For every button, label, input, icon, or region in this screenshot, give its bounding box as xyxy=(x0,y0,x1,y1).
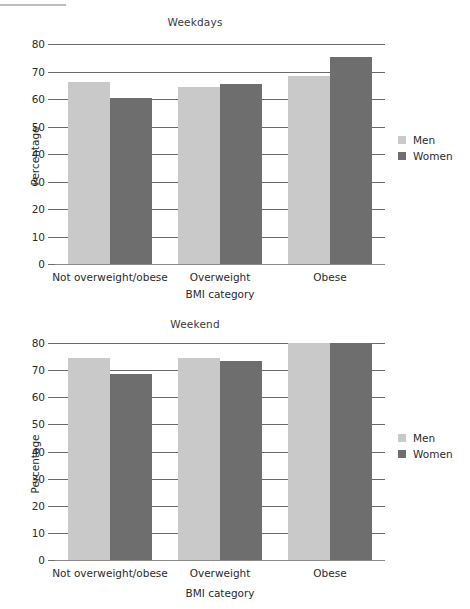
y-tick-label-30: 30 xyxy=(32,473,45,485)
x-tick-label-1: Overweight xyxy=(190,567,251,579)
y-axis-title-weekend: Percentage xyxy=(29,419,41,509)
x-tick-label-2: Obese xyxy=(313,271,346,283)
gridline-0 xyxy=(55,264,385,265)
y-tick-label-40: 40 xyxy=(32,446,45,458)
legend-label-men: Men xyxy=(413,432,435,444)
y-tick-10 xyxy=(48,237,55,238)
bar-men-0[interactable] xyxy=(68,358,110,560)
legend-swatch-men-icon xyxy=(398,434,406,442)
bar-women-1[interactable] xyxy=(220,361,262,560)
x-tick-label-1: Overweight xyxy=(190,271,251,283)
legend-swatch-women-icon xyxy=(398,450,406,458)
y-tick-50 xyxy=(48,127,55,128)
y-tick-label-60: 60 xyxy=(32,93,45,105)
bar-men-0[interactable] xyxy=(68,82,110,264)
legend-weekend: Men Women xyxy=(398,430,453,462)
y-tick-label-80: 80 xyxy=(32,337,45,349)
legend-weekdays: Men Women xyxy=(398,132,453,164)
y-tick-10 xyxy=(48,533,55,534)
y-tick-label-50: 50 xyxy=(32,418,45,430)
y-tick-60 xyxy=(48,397,55,398)
bar-men-2[interactable] xyxy=(288,76,330,264)
bar-women-2[interactable] xyxy=(330,57,372,264)
bar-women-0[interactable] xyxy=(110,98,152,264)
legend-swatch-men-icon xyxy=(398,136,406,144)
legend-item-men[interactable]: Men xyxy=(398,132,453,148)
x-axis-title-weekend: BMI category xyxy=(55,587,385,599)
legend-swatch-women-icon xyxy=(398,152,406,160)
bar-women-0[interactable] xyxy=(110,374,152,560)
y-tick-80 xyxy=(48,44,55,45)
bar-women-1[interactable] xyxy=(220,84,262,264)
chart-panel-weekend: Weekend Percentage 01020304050607080Not … xyxy=(0,310,470,609)
bar-men-1[interactable] xyxy=(178,87,220,264)
plot-area-weekend: 01020304050607080Not overweight/obeseOve… xyxy=(55,343,385,560)
chart-panel-weekdays: Weekdays Percentage 01020304050607080Not… xyxy=(0,0,470,310)
bar-men-2[interactable] xyxy=(288,343,330,560)
chart-title-weekdays: Weekdays xyxy=(0,16,390,28)
x-axis-title-weekdays: BMI category xyxy=(55,288,385,300)
x-tick-label-2: Obese xyxy=(313,567,346,579)
y-tick-label-30: 30 xyxy=(32,176,45,188)
y-tick-label-0: 0 xyxy=(38,258,45,270)
legend-label-men: Men xyxy=(413,134,435,146)
y-tick-40 xyxy=(48,452,55,453)
y-tick-label-50: 50 xyxy=(32,121,45,133)
y-tick-30 xyxy=(48,479,55,480)
y-tick-0 xyxy=(48,264,55,265)
y-tick-label-80: 80 xyxy=(32,38,45,50)
y-tick-label-10: 10 xyxy=(32,231,45,243)
y-tick-70 xyxy=(48,72,55,73)
chart-title-weekend: Weekend xyxy=(0,318,390,330)
y-tick-30 xyxy=(48,182,55,183)
bar-women-2[interactable] xyxy=(330,343,372,560)
y-tick-label-40: 40 xyxy=(32,148,45,160)
legend-item-women[interactable]: Women xyxy=(398,446,453,462)
y-tick-label-0: 0 xyxy=(38,554,45,566)
legend-label-women: Women xyxy=(413,448,453,460)
y-tick-0 xyxy=(48,560,55,561)
gridline-0 xyxy=(55,560,385,561)
legend-item-women[interactable]: Women xyxy=(398,148,453,164)
bar-men-1[interactable] xyxy=(178,358,220,560)
x-tick-label-0: Not overweight/obese xyxy=(52,567,168,579)
y-tick-label-20: 20 xyxy=(32,203,45,215)
y-tick-label-10: 10 xyxy=(32,527,45,539)
legend-item-men[interactable]: Men xyxy=(398,430,453,446)
y-tick-50 xyxy=(48,424,55,425)
x-tick-label-0: Not overweight/obese xyxy=(52,271,168,283)
plot-area-weekdays: 01020304050607080Not overweight/obeseOve… xyxy=(55,44,385,264)
y-tick-60 xyxy=(48,99,55,100)
legend-label-women: Women xyxy=(413,150,453,162)
gridline-80 xyxy=(55,44,385,45)
y-tick-70 xyxy=(48,370,55,371)
y-tick-label-70: 70 xyxy=(32,66,45,78)
y-tick-20 xyxy=(48,209,55,210)
y-tick-label-60: 60 xyxy=(32,391,45,403)
y-tick-80 xyxy=(48,343,55,344)
y-tick-label-70: 70 xyxy=(32,364,45,376)
y-tick-40 xyxy=(48,154,55,155)
y-tick-label-20: 20 xyxy=(32,500,45,512)
y-tick-20 xyxy=(48,506,55,507)
